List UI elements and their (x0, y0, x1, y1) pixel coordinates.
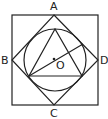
geometry-diagram: A B C D O (0, 0, 108, 119)
label-o: O (56, 59, 65, 72)
label-c: C (50, 107, 58, 119)
label-a: A (50, 0, 58, 13)
center-point-o (53, 58, 56, 61)
label-b: B (1, 54, 9, 67)
label-d: D (100, 54, 108, 67)
